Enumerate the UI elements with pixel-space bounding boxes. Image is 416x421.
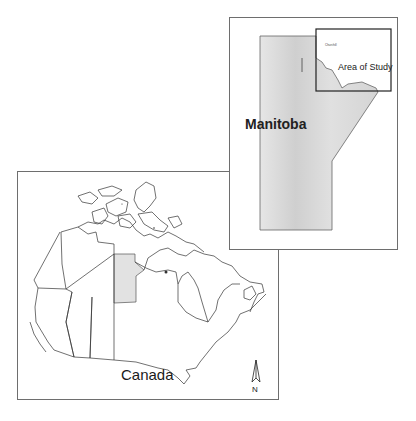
manitoba-inset-frame: Churchill Area of Study Manitoba <box>229 17 398 250</box>
north-arrow-label: N <box>252 385 258 394</box>
canada-label: Canada <box>121 366 174 383</box>
study-area-label: Area of Study <box>338 62 393 72</box>
churchill-label: Churchill <box>325 43 337 47</box>
manitoba-highlight <box>114 254 144 303</box>
inset-connector-line <box>278 250 279 276</box>
manitoba-label: Manitoba <box>245 116 306 132</box>
manitoba-inset-map <box>230 18 399 251</box>
north-arrow-icon <box>252 360 260 382</box>
